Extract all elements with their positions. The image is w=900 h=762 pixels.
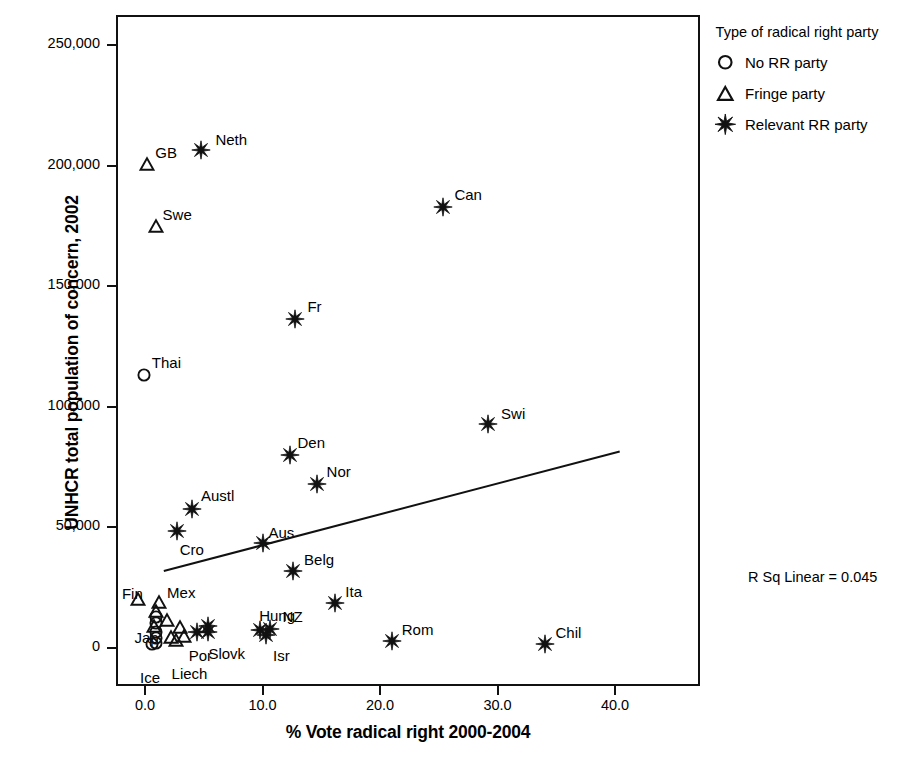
y-axis-tick bbox=[107, 165, 116, 167]
star-marker-icon bbox=[477, 412, 499, 434]
x-axis-tick bbox=[262, 686, 264, 695]
triangle-marker-icon bbox=[162, 629, 179, 645]
data-point-label: Can bbox=[454, 187, 482, 202]
data-point-label: Rom bbox=[402, 622, 434, 637]
data-point-label: Isr bbox=[273, 648, 290, 663]
data-point-label: Den bbox=[298, 435, 326, 450]
circle-marker-icon bbox=[148, 636, 163, 651]
star-marker-icon bbox=[181, 498, 203, 520]
data-point-label: Ita bbox=[345, 584, 362, 599]
legend-entry-triangle: Fringe party bbox=[712, 81, 892, 105]
star-marker-icon bbox=[533, 633, 555, 655]
star-marker-icon bbox=[381, 630, 403, 652]
legend-entries: No RR party Fringe party Relevant RR par… bbox=[712, 50, 892, 136]
star-marker-icon bbox=[432, 195, 454, 217]
y-axis-tick bbox=[107, 285, 116, 287]
data-point-label: GB bbox=[155, 145, 177, 160]
data-point-label: Por bbox=[189, 648, 212, 663]
star-marker-icon bbox=[190, 139, 212, 161]
legend-entry-label: Relevant RR party bbox=[745, 116, 868, 133]
data-point-label: Aus bbox=[269, 525, 295, 540]
y-axis-tick bbox=[107, 406, 116, 408]
star-marker-icon bbox=[284, 308, 306, 330]
data-point-label: Austl bbox=[201, 488, 234, 503]
y-axis-title: UNHCR total population of concern, 2002 bbox=[62, 153, 83, 573]
r-squared-annotation: R Sq Linear = 0.045 bbox=[748, 569, 877, 585]
chart-canvas: UNHCR total population of concern, 2002 … bbox=[0, 0, 900, 762]
legend-title: Type of radical right party bbox=[712, 22, 882, 43]
data-point-label: Fin bbox=[122, 586, 143, 601]
star-marker-icon bbox=[324, 592, 346, 614]
star-marker-icon bbox=[255, 624, 277, 646]
data-point-label: Cro bbox=[180, 542, 204, 557]
star-marker-icon bbox=[282, 560, 304, 582]
circle-marker-icon bbox=[712, 54, 738, 71]
triangle-marker-icon bbox=[712, 85, 738, 102]
plot-area-frame bbox=[116, 15, 700, 686]
star-marker-icon bbox=[197, 615, 219, 637]
data-point-label: Thai bbox=[152, 355, 181, 370]
legend-entry-circle: No RR party bbox=[712, 50, 892, 74]
data-point-label: Nor bbox=[327, 464, 351, 479]
star-marker-icon bbox=[712, 112, 738, 137]
star-marker-icon bbox=[305, 473, 327, 495]
triangle-marker-icon bbox=[139, 157, 156, 173]
data-point-label: Swi bbox=[501, 406, 525, 421]
data-point-label: Fr bbox=[307, 299, 321, 314]
data-point-label: Liech bbox=[172, 666, 208, 681]
data-point-label: Slovk bbox=[208, 646, 245, 661]
star-marker-icon bbox=[166, 520, 188, 542]
y-axis-tick bbox=[107, 526, 116, 528]
x-axis-tick bbox=[614, 686, 616, 695]
data-point-label: Chil bbox=[556, 625, 582, 640]
y-axis-tick bbox=[107, 44, 116, 46]
legend-entry-label: No RR party bbox=[745, 54, 828, 71]
data-point-label: Swe bbox=[163, 207, 192, 222]
x-axis-tick bbox=[497, 686, 499, 695]
x-axis-tick bbox=[144, 686, 146, 695]
data-point-label: Belg bbox=[304, 552, 334, 567]
x-axis-title: % Vote radical right 2000-2004 bbox=[116, 722, 700, 743]
data-point-label: Mex bbox=[167, 585, 195, 600]
y-axis-tick bbox=[107, 647, 116, 649]
data-point-label: Ice bbox=[140, 670, 160, 685]
legend-entry-label: Fringe party bbox=[745, 85, 825, 102]
data-point-label: Neth bbox=[215, 132, 247, 147]
x-axis-tick bbox=[379, 686, 381, 695]
triangle-marker-icon bbox=[147, 218, 164, 234]
circle-marker-icon bbox=[136, 368, 151, 383]
data-point-label: NZ bbox=[283, 609, 303, 624]
legend: Type of radical right party No RR party … bbox=[712, 22, 892, 136]
legend-entry-star: Relevant RR party bbox=[712, 112, 892, 136]
